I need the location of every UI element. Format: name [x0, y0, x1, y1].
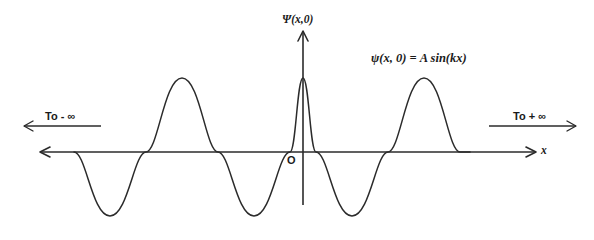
y-axis	[298, 31, 308, 205]
to-positive-infinity-label: To + ∞	[513, 111, 546, 122]
wave-plot-svg	[0, 0, 594, 240]
to-negative-infinity-arrow	[24, 121, 101, 131]
y-axis-label: Ψ(x,0)	[282, 14, 313, 26]
x-axis-label: x	[541, 145, 547, 157]
wavefunction-figure: Ψ(x,0) ψ(x, 0) = A sin(kx) O x To - ∞ To…	[0, 0, 594, 240]
sine-wave-curve	[74, 78, 470, 216]
to-negative-infinity-label: To - ∞	[45, 111, 75, 122]
to-positive-infinity-arrow	[489, 121, 576, 131]
origin-label: O	[287, 155, 296, 166]
wavefunction-equation-label: ψ(x, 0) = A sin(kx)	[371, 52, 467, 65]
